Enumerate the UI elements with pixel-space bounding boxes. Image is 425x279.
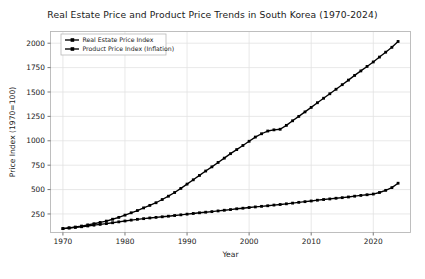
y-axis-title: Price Index (1970=100) <box>8 87 17 177</box>
chart-figure: Real Estate Price and Product Price Tren… <box>0 0 425 279</box>
x-axis-title: Year <box>221 250 239 259</box>
legend-entry-label: Real Estate Price Index <box>83 36 154 43</box>
y-tick-label: 1250 <box>26 112 45 121</box>
series-layer <box>62 40 400 230</box>
y-tick-label: 2000 <box>26 39 45 48</box>
y-tick-label: 1750 <box>26 63 45 72</box>
axis-labels: 2505007501000125015001750200019701980199… <box>8 39 383 259</box>
x-tick-label: 2000 <box>240 237 259 246</box>
x-tick-label: 2020 <box>364 237 383 246</box>
y-tick-label: 1000 <box>26 136 45 145</box>
gridlines <box>51 32 411 233</box>
plot-area: 2505007501000125015001750200019701980199… <box>0 0 425 279</box>
x-tick-label: 1990 <box>178 237 197 246</box>
x-tick-label: 2010 <box>302 237 321 246</box>
x-tick-label: 1970 <box>54 237 73 246</box>
y-tick-label: 500 <box>31 185 45 194</box>
y-tick-label: 1500 <box>26 88 45 97</box>
legend-entry-label: Product Price Index (Inflation) <box>83 45 175 52</box>
x-tick-label: 1980 <box>116 237 135 246</box>
y-tick-label: 250 <box>31 210 45 219</box>
y-tick-label: 750 <box>31 161 45 170</box>
chart-legend: Real Estate Price IndexProduct Price Ind… <box>61 34 174 55</box>
plot-frame <box>51 32 411 233</box>
axis-ticks <box>48 43 374 235</box>
